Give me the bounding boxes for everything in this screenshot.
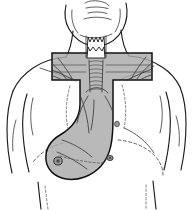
- head-and-mouth-group: [84, 1, 111, 20]
- jaw-right-inner: [115, 9, 120, 32]
- anatomy-diagram-svg: [0, 0, 193, 210]
- arm-left-inner: [23, 94, 29, 172]
- lymph-node-axillary-center: [56, 159, 59, 162]
- axillary-fold-left: [31, 98, 33, 135]
- larynx-group: [86, 36, 106, 58]
- medical-illustration-figure: [0, 0, 193, 210]
- arm-right-inner: [164, 92, 170, 170]
- chin-crease: [84, 17, 111, 19]
- arm-left-crease: [13, 120, 16, 151]
- figure-caption: [0, 200, 193, 210]
- lung-border-left: [66, 86, 70, 129]
- arm-left-outer: [7, 91, 13, 173]
- mouth-upper-lip: [85, 1, 109, 6]
- lymph-node-upper: [115, 121, 120, 127]
- mouth-lower-lip: [88, 12, 107, 14]
- mouth-line: [86, 7, 108, 9]
- axillary-fold-right: [160, 96, 162, 133]
- pectoral-contour-right: [118, 140, 163, 175]
- jaw-left-inner: [72, 10, 78, 33]
- mandible-right-ramus: [101, 3, 127, 46]
- arm-right-crease: [176, 116, 179, 146]
- lung-border-right: [122, 85, 126, 128]
- lymph-node-secondary-center: [109, 157, 111, 159]
- neck-right-border: [121, 30, 129, 56]
- chest-midline-right: [124, 128, 154, 153]
- arm-right-outer: [180, 87, 186, 170]
